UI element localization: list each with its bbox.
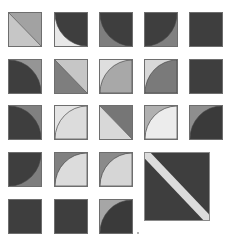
arc-bottomright-graphic [55,153,87,186]
diagonal-graphic [55,60,87,93]
tile-r5c1-solid [8,199,42,234]
solid-graphic [190,60,222,93]
tile-r2c5-solid [189,59,223,94]
tile-r1c1-diagonal [8,12,42,47]
tile-r2c4-arc-bottomright [144,59,178,94]
solid-graphic [9,200,41,233]
tile-r3c3-diagonal [99,105,133,140]
arc-bottomright-graphic [145,60,177,93]
tile-r4c1-arc-topleft [8,152,42,187]
tile-r5c3-arc-bottomright [99,199,133,234]
arc-bottomright-graphic [145,106,177,139]
tile-r2c2-diagonal [54,59,88,94]
arc-topright-graphic [100,13,132,46]
arc-bottomright-graphic [190,106,222,139]
diagonal-graphic [100,106,132,139]
tile-r1c3-arc-topright [99,12,133,47]
solid-graphic [190,13,222,46]
arc-bottomleft-graphic [9,60,41,93]
arc-bottomright-graphic [100,200,132,233]
tile-r5c2-solid [54,199,88,234]
tile-r4c2-arc-bottomright [54,152,88,187]
tile-r3c5-arc-bottomright [189,105,223,140]
tile-r2c1-arc-bottomleft [8,59,42,94]
tile-r2c3-arc-bottomright [99,59,133,94]
tile-r1c2-arc-topright [54,12,88,47]
arc-topright-graphic [55,13,87,46]
arc-topleft-graphic [9,153,41,186]
tile-r4c3-arc-bottomright [99,152,133,187]
tile-r3c1-arc-bottomleft [8,105,42,140]
tile-r1c4-arc-topleft [144,12,178,47]
solid-graphic [55,200,87,233]
large-tile-diagonal-stripe [144,152,210,221]
arc-topleft-graphic [145,13,177,46]
arc-bottomright-graphic [100,60,132,93]
arc-bottomleft-graphic [9,106,41,139]
tile-r3c2-arc-bottomright [54,105,88,140]
tile-r1c5-solid [189,12,223,47]
diagonal-graphic [9,13,41,46]
small-dot [137,232,139,234]
arc-bottomright-graphic [55,106,87,139]
arc-bottomright-graphic [100,153,132,186]
tile-r3c4-arc-bottomright [144,105,178,140]
diagonal-stripe-graphic [145,153,209,220]
